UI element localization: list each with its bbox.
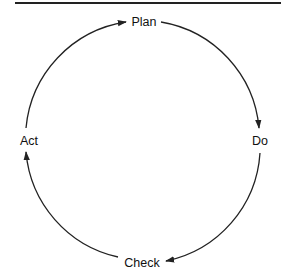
node-plan: Plan — [131, 15, 156, 29]
arrow-check-to-act — [26, 152, 118, 257]
arrow-plan-to-do — [161, 22, 259, 128]
node-do: Do — [252, 134, 268, 148]
arrow-act-to-plan — [26, 22, 126, 128]
arrow-do-to-check — [166, 153, 260, 261]
node-check: Check — [124, 256, 160, 270]
node-act: Act — [20, 134, 39, 148]
pdca-cycle-diagram: Plan Do Check Act — [0, 0, 281, 279]
